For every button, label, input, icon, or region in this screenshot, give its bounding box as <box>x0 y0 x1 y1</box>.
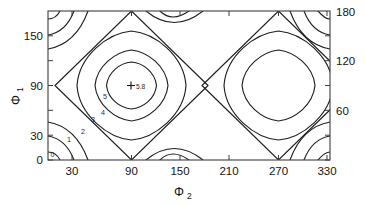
contour-level-0 <box>318 152 330 160</box>
y-axis-ticks-left <box>48 36 53 160</box>
y-tick-label-0: 0 <box>37 154 43 166</box>
contour-level-1 <box>304 11 330 35</box>
contour-label-0: 0 <box>51 150 55 159</box>
y-tick-label-90: 90 <box>30 80 43 92</box>
contour-level-1 <box>304 136 330 160</box>
y-axis-ticks-right <box>325 36 330 160</box>
y-tick-label-30: 30 <box>30 130 43 142</box>
x-tick-label-330: 330 <box>317 165 336 177</box>
x-axis-title-subscript: 2 <box>187 191 192 201</box>
x-tick-label-270: 270 <box>269 165 288 177</box>
contour-level-2 <box>48 11 88 49</box>
contour-plot-svg: 5.8 0 1 2 3 4 5 <box>0 0 365 205</box>
y-axis-tick-labels-left: 0 30 90 150 <box>24 30 43 166</box>
plot-frame <box>48 11 330 160</box>
y-axis-title-symbol: Φ <box>9 95 23 105</box>
contour-level-1 <box>160 11 189 17</box>
x-tick-label-210: 210 <box>219 165 238 177</box>
contour-label-1: 1 <box>67 135 71 144</box>
contour-level-5 <box>242 50 315 121</box>
x-axis-title-symbol: Φ <box>174 185 184 199</box>
contour-level-3 <box>202 11 355 160</box>
contour-level-1 <box>48 11 74 35</box>
y-axis-title-subscript: 1 <box>15 87 25 92</box>
x-tick-label-150: 150 <box>170 165 189 177</box>
x-tick-label-90: 90 <box>125 165 138 177</box>
contour-line-group <box>48 11 355 160</box>
y-tick-label-right-60: 60 <box>336 105 349 117</box>
peak-value-label: 5.8 <box>136 83 145 90</box>
y-axis-title: Φ 1 <box>9 87 25 105</box>
contour-label-2: 2 <box>81 127 85 136</box>
y-tick-label-150: 150 <box>24 30 43 42</box>
peak-marker-group: 5.8 <box>127 82 145 91</box>
x-tick-label-30: 30 <box>66 165 79 177</box>
contour-plot-figure: 5.8 0 1 2 3 4 5 <box>0 0 365 205</box>
contour-level-0 <box>48 11 60 19</box>
x-axis-tick-labels: 30 90 150 210 270 330 <box>66 165 337 177</box>
contour-label-5: 5 <box>103 92 107 101</box>
contour-level-0 <box>318 11 330 19</box>
x-axis-title: Φ 2 <box>174 185 192 201</box>
y-tick-label-right-120: 120 <box>336 55 355 67</box>
y-axis-tick-labels-right: 60 120 180 <box>336 6 355 117</box>
y-tick-label-right-180: 180 <box>336 6 355 18</box>
contour-label-4: 4 <box>101 108 105 117</box>
contour-label-3: 3 <box>91 115 95 124</box>
contour-level-1 <box>160 154 189 160</box>
